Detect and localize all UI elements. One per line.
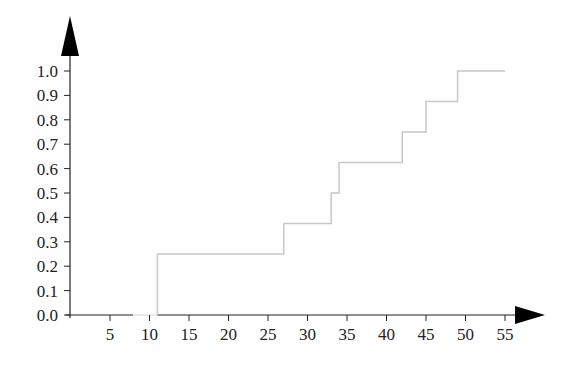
x-tick-labels: 510152025303540455055 <box>106 325 514 344</box>
x-tick-label: 30 <box>299 325 316 344</box>
x-tick-label: 15 <box>181 325 198 344</box>
y-axis <box>64 50 70 318</box>
y-axis-arrow-icon <box>61 16 79 56</box>
y-tick-label: 0.5 <box>37 184 58 203</box>
x-tick-label: 50 <box>457 325 474 344</box>
y-tick-label: 0.3 <box>37 233 58 252</box>
step-line-series <box>157 71 505 315</box>
x-axis <box>66 315 517 321</box>
y-tick-label: 0.7 <box>37 135 59 154</box>
y-tick-label: 0.1 <box>37 282 58 301</box>
x-tick-label: 25 <box>260 325 277 344</box>
x-tick-label: 10 <box>141 325 158 344</box>
y-tick-label: 1.0 <box>37 62 58 81</box>
x-axis-arrow-icon <box>515 306 545 324</box>
x-tick-label: 55 <box>497 325 514 344</box>
x-tick-label: 5 <box>106 325 115 344</box>
y-tick-labels: 0.00.10.20.30.40.50.60.70.80.91.0 <box>37 62 59 325</box>
y-tick-label: 0.6 <box>37 160 58 179</box>
y-tick-label: 0.9 <box>37 86 58 105</box>
x-tick-label: 20 <box>220 325 237 344</box>
y-tick-label: 0.2 <box>37 257 58 276</box>
y-tick-label: 0.8 <box>37 111 58 130</box>
y-tick-label: 0.0 <box>37 306 58 325</box>
y-tick-label: 0.4 <box>37 208 59 227</box>
ecdf-chart: 0.00.10.20.30.40.50.60.70.80.91.0 510152… <box>0 0 577 374</box>
x-tick-label: 35 <box>339 325 356 344</box>
x-tick-label: 40 <box>378 325 395 344</box>
x-tick-label: 45 <box>418 325 435 344</box>
